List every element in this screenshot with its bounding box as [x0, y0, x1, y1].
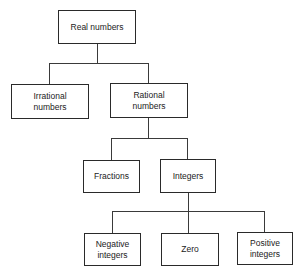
connector-to-zero [188, 211, 189, 233]
node-zero: Zero [161, 233, 219, 266]
connector-real-down [97, 43, 98, 63]
number-tree-diagram: Real numbers Irrational numbers Rational… [0, 0, 302, 277]
connector-to-fractions [111, 138, 112, 160]
node-negative-integers: Negative integers [84, 233, 141, 266]
connector-to-integers [187, 138, 188, 159]
connector-integers-down [188, 192, 189, 211]
node-positive-integers: Positive integers [237, 232, 293, 265]
node-integers: Integers [160, 159, 216, 193]
connector-to-negative [112, 211, 113, 233]
node-real-numbers: Real numbers [58, 10, 136, 44]
connector-level2-bar [111, 138, 188, 139]
node-irrational-numbers: Irrational numbers [11, 84, 89, 119]
connector-rational-down [148, 117, 149, 138]
connector-to-positive [264, 211, 265, 232]
node-fractions: Fractions [83, 160, 140, 193]
connector-to-irrational [49, 63, 50, 84]
connector-to-rational [148, 63, 149, 83]
connector-level1-bar [49, 63, 149, 64]
node-rational-numbers: Rational numbers [110, 83, 188, 118]
